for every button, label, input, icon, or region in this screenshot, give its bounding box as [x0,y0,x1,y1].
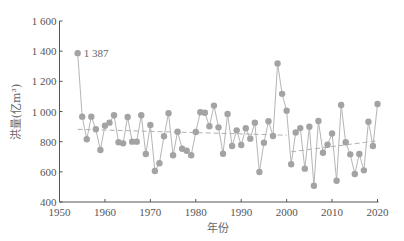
data-point [138,112,144,118]
data-point [220,151,226,157]
data-point [88,113,94,119]
data-point [215,124,221,130]
y-tick-label: 1 400 [32,45,57,57]
data-point [211,102,217,108]
data-point [288,161,294,167]
data-point [361,167,367,173]
data-point [338,102,344,108]
y-tick-label: 1 200 [32,75,57,87]
data-point [206,123,212,129]
x-axis-title: 年份 [207,221,229,235]
y-tick-label: 1 600 [32,15,57,27]
data-point [233,127,239,133]
trend-line [291,141,377,152]
data-point [297,125,303,131]
data-point [347,151,353,157]
y-tick-label: 800 [40,136,57,148]
data-point [320,149,326,155]
data-point [152,168,158,174]
data-point [252,119,258,125]
x-tick-label: 1950 [49,206,72,218]
data-point [265,118,271,124]
data-point [374,101,380,107]
data-point [111,112,117,118]
data-point [147,122,153,128]
data-point [283,108,289,114]
data-point [279,91,285,97]
data-point [165,110,171,116]
data-point [106,119,112,125]
data-point [224,111,230,117]
y-tick-label: 600 [40,166,57,178]
x-tick-label: 1990 [230,206,253,218]
data-point [97,147,103,153]
data-point [170,152,176,158]
data-point [315,118,321,124]
data-point [84,136,90,142]
data-point [93,126,99,132]
x-tick-label: 1970 [139,206,162,218]
data-point [256,169,262,175]
data-point [274,60,280,66]
data-point [79,113,85,119]
data-point [261,140,267,146]
data-point [229,143,235,149]
data-point [311,183,317,189]
data-point [174,129,180,135]
data-point [143,151,149,157]
data-point [333,178,339,184]
x-tick-label: 2010 [321,206,344,218]
data-point [365,119,371,125]
data-point [343,139,349,145]
data-point [243,125,249,131]
data-point [324,141,330,147]
x-tick-label: 2000 [276,206,299,218]
data-point [302,165,308,171]
data-point [124,114,130,120]
data-point [134,138,140,144]
data-point [270,133,276,139]
data-point [161,133,167,139]
flood-volume-chart: 1 387 4006008001 0001 2001 4001 60019501… [0,0,404,241]
peak-annotation: 1 387 [84,47,109,59]
data-point [247,135,253,141]
x-tick-label: 1960 [94,206,117,218]
x-tick-label: 1980 [185,206,208,218]
data-line [78,53,378,186]
x-tick-label: 2020 [367,206,390,218]
data-point [193,129,199,135]
data-point [238,142,244,148]
data-point [370,143,376,149]
y-tick-label: 1 000 [32,106,57,118]
data-point [306,124,312,130]
data-point [184,148,190,154]
data-point [188,152,194,158]
data-point [356,151,362,157]
data-point [120,140,126,146]
data-point [352,171,358,177]
data-point [202,110,208,116]
y-axis-title: 洪量(亿m³) [9,84,23,140]
data-point [74,50,80,56]
data-point [329,130,335,136]
data-point [156,160,162,166]
series-layer: 1 387 [74,47,380,189]
